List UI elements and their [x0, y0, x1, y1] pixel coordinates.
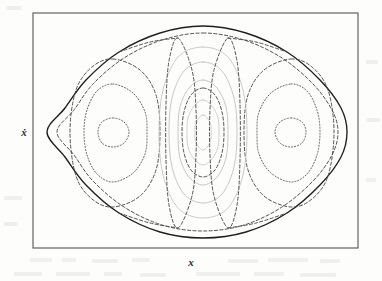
x-axis-label: x — [0, 256, 382, 268]
contour-plot-figure — [0, 0, 382, 281]
plot-background — [0, 0, 382, 281]
y-axis-label: ẋ — [14, 126, 34, 138]
